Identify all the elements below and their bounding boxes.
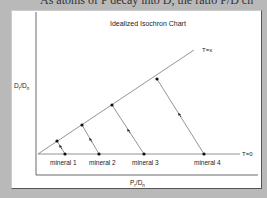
- mineral-3-label: mineral 3: [132, 159, 159, 166]
- mineral-3-path: [110, 103, 145, 155]
- mineral-2-label: mineral 2: [89, 159, 116, 166]
- mineral-4-path: [155, 77, 205, 155]
- mineral-1-path: [55, 139, 66, 155]
- mineral-2-path: [80, 123, 100, 155]
- mineral-4-label: mineral 4: [194, 159, 221, 166]
- t0-label: T=0: [242, 151, 253, 157]
- mineral-1-label: mineral 1: [50, 159, 77, 166]
- x-axis-label: Pr/Dn: [130, 179, 145, 188]
- tx-line: [38, 50, 194, 154]
- tx-label: T=x: [202, 47, 212, 53]
- chart-title: Idealized Isochron Chart: [110, 20, 186, 27]
- y-axis-label: Dr/Dn: [14, 82, 30, 91]
- isochron-chart: Idealized Isochron Chart Dr/Dn Pr/Dn T=0…: [0, 0, 267, 198]
